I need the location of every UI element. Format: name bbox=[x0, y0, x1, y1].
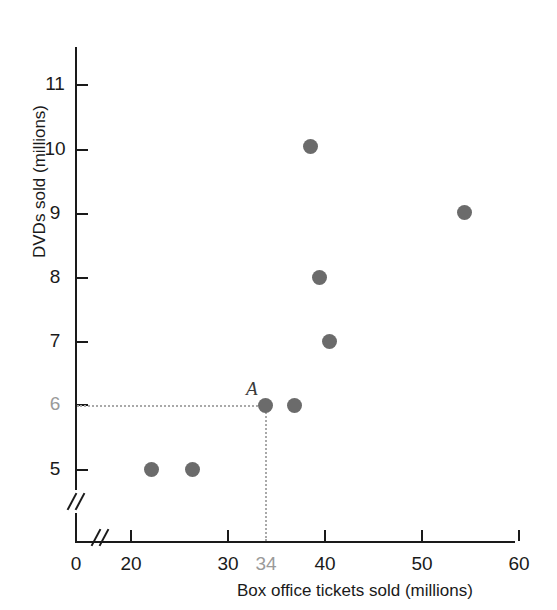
y-tick-label-7: 7 bbox=[42, 330, 68, 352]
y-tick-label-6: 6 bbox=[42, 393, 68, 415]
x-tick-label-30: 30 bbox=[209, 553, 247, 575]
y-tick-label-10: 10 bbox=[42, 138, 68, 160]
y-tick-7 bbox=[77, 341, 88, 343]
y-tick-label-11: 11 bbox=[42, 73, 68, 95]
y-axis-lower-stub bbox=[75, 513, 77, 543]
x-tick-label-20: 20 bbox=[112, 553, 150, 575]
y-tick-11 bbox=[77, 84, 88, 86]
x-tick-60 bbox=[518, 530, 520, 541]
data-point-a bbox=[258, 398, 273, 413]
x-tick-20 bbox=[130, 530, 132, 541]
y-axis-break-mark bbox=[68, 490, 86, 516]
data-point bbox=[303, 139, 318, 154]
data-point bbox=[287, 398, 302, 413]
y-axis-title: DVDs sold (millions) bbox=[30, 105, 50, 258]
data-point bbox=[185, 462, 200, 477]
x-tick-30 bbox=[227, 530, 229, 541]
guide-line-vertical-a bbox=[265, 405, 267, 541]
x-axis-break-mark bbox=[92, 528, 114, 554]
x-axis-title: Box office tickets sold (millions) bbox=[237, 581, 473, 601]
guide-line-horizontal-a bbox=[77, 405, 265, 407]
x-axis-line bbox=[75, 541, 515, 543]
x-tick-label-40: 40 bbox=[306, 553, 344, 575]
y-tick-10 bbox=[77, 149, 88, 151]
x-tick-label-0: 0 bbox=[63, 553, 89, 575]
x-tick-label-34: 34 bbox=[247, 553, 285, 575]
data-point bbox=[312, 270, 327, 285]
y-tick-label-8: 8 bbox=[42, 266, 68, 288]
y-axis-line bbox=[75, 47, 77, 490]
x-tick-label-50: 50 bbox=[403, 553, 441, 575]
y-tick-8 bbox=[77, 277, 88, 279]
data-point bbox=[457, 205, 472, 220]
y-tick-9 bbox=[77, 213, 88, 215]
data-point bbox=[144, 462, 159, 477]
y-tick-label-9: 9 bbox=[42, 202, 68, 224]
data-point bbox=[322, 334, 337, 349]
x-tick-50 bbox=[421, 530, 423, 541]
y-tick-5 bbox=[77, 469, 88, 471]
y-tick-label-5: 5 bbox=[42, 458, 68, 480]
x-tick-40 bbox=[324, 530, 326, 541]
x-tick-label-60: 60 bbox=[500, 553, 538, 575]
data-point-a-label: A bbox=[246, 378, 258, 400]
scatter-plot: DVDs sold (millions) 11 10 9 8 7 6 5 0 2… bbox=[0, 0, 557, 610]
